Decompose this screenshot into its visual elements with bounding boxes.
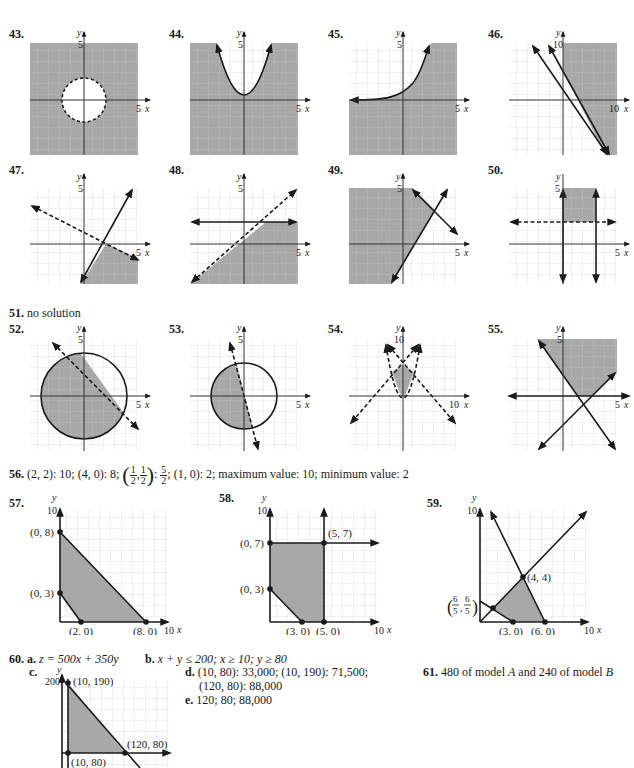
svg-text:5: 5: [615, 399, 620, 410]
part-b-label: b.: [145, 652, 155, 666]
graph-57: y 10 10 x (0, 8) (0, 3) (2, 0) (8, 0): [0, 495, 200, 635]
vertex-label: (5, 0): [316, 625, 340, 635]
svg-text:200: 200: [45, 676, 60, 687]
svg-text:5: 5: [296, 247, 301, 258]
svg-text:y: y: [395, 323, 401, 333]
svg-text:5: 5: [78, 39, 83, 50]
answer-56-part2: ; (1, 0): 2; maximum value: 10; minimum …: [167, 467, 408, 481]
problem-44-label: 44.: [169, 27, 184, 42]
part-d-line2: (120, 80): 88,000: [185, 679, 282, 693]
answer-56: 56. (2, 2): 10; (4, 0): 8; (12,12): 52; …: [9, 462, 409, 488]
answer-60-e: e. 120; 80; 88,000: [185, 693, 272, 708]
svg-text:y: y: [56, 665, 62, 675]
problem-60-label: 60.: [9, 652, 24, 666]
vertex-label: (8, 0): [133, 625, 157, 635]
vertex-label: (6, 0): [531, 625, 555, 635]
frac-den: 2: [131, 476, 136, 486]
problem-53-label: 53.: [169, 322, 184, 337]
graph-45: y 5 5 x: [345, 28, 475, 163]
svg-text:,: ,: [460, 602, 463, 613]
svg-text:x: x: [144, 399, 150, 410]
svg-text:10: 10: [164, 625, 174, 635]
svg-text:x: x: [596, 624, 602, 635]
vertex-label: (0, 8): [30, 526, 54, 539]
svg-text:5: 5: [238, 183, 243, 194]
frac-den: 2: [161, 476, 166, 486]
svg-text:y: y: [76, 323, 82, 333]
frac-den: 5: [453, 606, 458, 616]
svg-text:x: x: [463, 103, 469, 114]
problem-55-label: 55.: [488, 322, 503, 337]
graph-48: y 5 5 x: [186, 164, 316, 284]
graph-53: y 5 5 x: [186, 323, 316, 458]
part-d-line1: (10, 80): 33,000; (10, 190): 71,500;: [198, 665, 368, 679]
svg-text:5: 5: [78, 183, 83, 194]
part-b-text: x + y ≤ 200; x ≥ 10; y ≥ 80: [158, 652, 287, 666]
svg-text:x: x: [463, 399, 469, 410]
graph-59: y 10 10 x (4, 4) (3, 0) (6, 0) ( 6 5 , 6…: [420, 495, 634, 635]
vertex-label: (10, 190): [73, 675, 114, 688]
problem-48-label: 48.: [169, 163, 184, 178]
svg-text:5: 5: [397, 39, 402, 50]
problem-47-label: 47.: [9, 163, 24, 178]
svg-text:y: y: [261, 495, 267, 503]
part-a-text: z = 500x + 350y: [39, 652, 119, 666]
vertex-label: (2, 0): [69, 625, 93, 635]
frac-num: 1: [140, 465, 147, 476]
problem-56-label: 56.: [9, 467, 24, 481]
problem-49-label: 49.: [328, 163, 343, 178]
graph-55: y 5 5 x: [505, 323, 634, 458]
part-e-text: 120; 80; 88,000: [196, 693, 272, 707]
svg-text:5: 5: [296, 399, 301, 410]
svg-text:10: 10: [47, 505, 57, 516]
vertex-label: (3, 0): [499, 625, 523, 635]
svg-text:10: 10: [449, 399, 459, 410]
svg-text:5: 5: [615, 247, 620, 258]
svg-text:x: x: [623, 103, 629, 114]
svg-text:5: 5: [296, 103, 301, 114]
svg-text:x: x: [304, 103, 310, 114]
svg-text:x: x: [623, 247, 629, 258]
svg-text:10: 10: [374, 625, 384, 635]
graph-60c: y 200 (10, 190) (120, 80) (10, 80): [35, 665, 185, 768]
vertex-label: (4, 4): [527, 571, 551, 584]
graph-46: y 10 10 x: [505, 28, 634, 163]
svg-text:y: y: [395, 28, 401, 38]
svg-text:10: 10: [584, 625, 594, 635]
svg-text:y: y: [236, 171, 242, 182]
answer-61-mid: and 240 of model: [515, 665, 605, 679]
part-e-label: e.: [185, 693, 193, 707]
vertex-label: (120, 80): [127, 738, 168, 751]
svg-text:y: y: [395, 171, 401, 182]
problem-52-label: 52.: [9, 322, 24, 337]
graph-58: y 10 10 x (0, 7) (5, 7) (0, 3) (3, 0) (5…: [210, 495, 410, 635]
svg-text:5: 5: [136, 399, 141, 410]
answer-51: 51. no solution: [9, 306, 81, 321]
vertex-label: (10, 80): [71, 756, 106, 768]
answer-61-pre: 480 of model: [441, 665, 508, 679]
svg-text:5: 5: [136, 103, 141, 114]
svg-text:5: 5: [555, 183, 560, 194]
vertex-label: (5, 7): [328, 527, 352, 540]
vertex-label: (0, 7): [240, 537, 264, 550]
svg-text:x: x: [463, 247, 469, 258]
part-d-label: d.: [185, 665, 195, 679]
svg-text:x: x: [386, 624, 392, 635]
svg-text:10: 10: [467, 505, 477, 516]
svg-text:y: y: [51, 495, 57, 503]
model-b: B: [606, 665, 613, 679]
graph-44: y 5 5 x: [186, 28, 316, 163]
svg-text:5: 5: [397, 183, 402, 194]
frac-den: 2: [141, 476, 146, 486]
svg-text:y: y: [555, 171, 561, 182]
frac-num: 1: [130, 465, 137, 476]
graph-49: y 5 5 x: [345, 164, 475, 284]
svg-text:x: x: [304, 399, 310, 410]
svg-text:x: x: [623, 399, 629, 410]
svg-text:y: y: [76, 171, 82, 182]
svg-text:5: 5: [455, 247, 460, 258]
svg-text:x: x: [304, 247, 310, 258]
problem-45-label: 45.: [328, 27, 343, 42]
problem-61-label: 61.: [423, 665, 438, 679]
svg-text:5: 5: [455, 103, 460, 114]
